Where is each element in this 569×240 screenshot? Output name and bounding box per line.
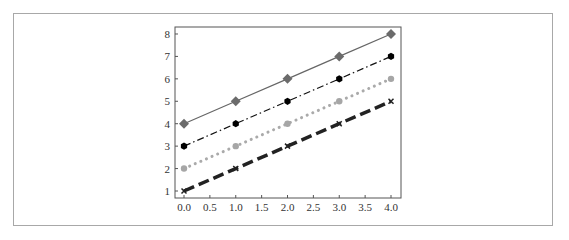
x-axis: 0.00.51.01.52.02.53.03.54.0 <box>177 195 398 213</box>
x-tick-label: 0.5 <box>203 201 217 213</box>
x-tick-label: 1.0 <box>229 201 243 213</box>
x-tick-label: 1.5 <box>255 201 269 213</box>
x-tick-label: 3.5 <box>358 201 372 213</box>
circle-marker <box>233 143 239 149</box>
diamond-marker <box>231 96 241 106</box>
hexagon-marker <box>388 53 394 60</box>
y-tick-label: 4 <box>165 118 171 130</box>
y-axis: 12345678 <box>165 28 179 197</box>
hexagon-marker <box>336 75 342 82</box>
series-series-3 <box>181 76 394 172</box>
y-tick-label: 8 <box>165 28 171 40</box>
hexagon-marker <box>181 143 187 150</box>
circle-marker <box>336 98 342 104</box>
diamond-marker <box>334 51 344 61</box>
circle-marker <box>284 121 290 127</box>
x-tick-label: 2.0 <box>281 201 295 213</box>
diamond-marker <box>283 74 293 84</box>
y-tick-label: 6 <box>165 73 171 85</box>
y-tick-label: 5 <box>165 95 171 107</box>
series-layer <box>179 29 396 194</box>
x-tick-label: 2.5 <box>307 201 321 213</box>
y-tick-label: 3 <box>165 140 171 152</box>
circle-marker <box>388 76 394 82</box>
series-series-2 <box>181 53 394 150</box>
y-tick-label: 7 <box>165 50 171 62</box>
diamond-marker <box>179 119 189 129</box>
x-tick-label: 0.0 <box>177 201 191 213</box>
y-tick-label: 2 <box>165 163 171 175</box>
line-chart: 0.00.51.01.52.02.53.03.54.0 12345678 <box>0 0 569 240</box>
x-tick-label: 3.0 <box>332 201 346 213</box>
x-tick-label: 4.0 <box>384 201 398 213</box>
series-series-4 <box>182 99 394 194</box>
y-tick-label: 1 <box>165 185 171 197</box>
hexagon-marker <box>233 120 239 127</box>
hexagon-marker <box>284 98 290 105</box>
circle-marker <box>181 165 187 171</box>
diamond-marker <box>386 29 396 39</box>
